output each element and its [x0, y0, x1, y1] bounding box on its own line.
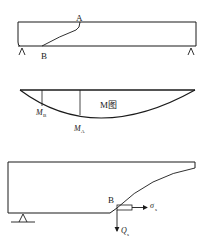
top-beam-left-edge: [18, 22, 20, 46]
svg-text:A: A: [81, 129, 85, 134]
label-ma: M A: [73, 124, 85, 134]
crack-line: [42, 22, 80, 46]
moment-diagram: M图 M B M A: [20, 90, 195, 134]
label-a: A: [76, 13, 83, 23]
left-support-icon: [19, 48, 25, 55]
svg-text:s: s: [155, 207, 157, 212]
label-q-s: Q s: [121, 226, 129, 237]
bottom-beam-bottom-kink: [110, 208, 117, 213]
svg-text:s: s: [127, 232, 129, 237]
label-mb: M B: [35, 108, 47, 118]
label-sigma-s: σ s: [150, 201, 157, 212]
right-support-icon: [188, 48, 194, 55]
support-icon: [19, 214, 27, 222]
bottom-beam: B σ s Q s: [8, 162, 195, 237]
label-point-b: B: [108, 195, 114, 205]
top-beam: A B: [18, 13, 196, 61]
label-b: B: [41, 51, 47, 61]
crack-curve: [117, 168, 195, 208]
svg-text:B: B: [43, 113, 47, 118]
moment-diagram-title: M图: [100, 100, 117, 110]
beam-crack-diagram: A B M图 M B M A B: [0, 0, 202, 251]
